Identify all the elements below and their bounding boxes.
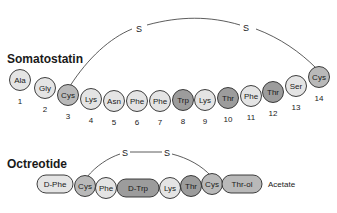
residue-label: D-Phe	[44, 180, 67, 189]
residue-cys-14: Cys14	[309, 67, 330, 104]
residue-label: Trp	[177, 96, 189, 105]
residue-thr-ol: Thr-ol	[222, 175, 262, 193]
residue-gly-2: Gly2	[35, 78, 56, 115]
residue-number: 6	[135, 118, 140, 127]
residue-phe-11: Phe11	[241, 86, 262, 123]
residue-label: Lys	[85, 95, 97, 104]
residue-label: Cys	[78, 182, 92, 191]
residue-label: Thr	[267, 88, 279, 97]
residue-number: 14	[315, 94, 324, 103]
residue-number: 9	[203, 117, 208, 126]
residue-label: Cys	[61, 91, 75, 100]
residue-label: Phe	[99, 184, 114, 193]
residue-number: 4	[89, 116, 94, 125]
residue-label: Phe	[153, 97, 168, 106]
residue-label: Phe	[244, 92, 259, 101]
residue-thr-10: Thr10	[218, 88, 239, 125]
residue-cys: Cys	[75, 176, 96, 197]
residue-d-phe: D-Phe	[37, 175, 73, 193]
residue-number: 8	[181, 117, 186, 126]
residue-phe-7: Phe7	[150, 91, 171, 128]
residue-label: Lys	[164, 184, 176, 193]
residue-label: Phe	[130, 97, 145, 106]
residue-number: 13	[292, 103, 301, 112]
residue-number: 7	[158, 118, 163, 127]
residue-label: Asn	[107, 97, 121, 106]
residue-label: Cys	[312, 73, 326, 82]
residue-cys-3: Cys3	[58, 85, 79, 122]
residue-cys: Cys	[202, 174, 223, 195]
residue-lys: Lys	[160, 178, 181, 199]
residue-label: Ala	[14, 76, 26, 85]
residue-lys-9: Lys9	[195, 90, 216, 127]
residue-phe: Phe	[96, 178, 117, 199]
residue-number: 3	[66, 112, 71, 121]
residue-number: 2	[43, 105, 48, 114]
residue-ala-1: Ala1	[10, 70, 31, 107]
peptide-diagram: S S Ala1Gly2Cys3Lys4Asn5Phe6Phe7Trp8Lys9…	[0, 0, 337, 213]
residue-label: Thr	[222, 94, 234, 103]
residue-label: Gly	[39, 84, 51, 93]
residue-trp-8: Trp8	[173, 90, 194, 127]
sulfur-label-left: S	[136, 24, 142, 34]
residue-number: 1	[18, 97, 23, 106]
residue-thr-12: Thr12	[263, 82, 284, 119]
residue-number: 11	[247, 113, 256, 122]
octreotide-chain: D-PheCysPheD-TrpLysThrCysThr-ol	[37, 174, 262, 199]
sulfur-label-right: S	[164, 148, 170, 158]
residue-label: Cys	[205, 180, 219, 189]
somatostatin-chain: Ala1Gly2Cys3Lys4Asn5Phe6Phe7Trp8Lys9Thr1…	[10, 67, 330, 128]
residue-label: Thr	[185, 182, 197, 191]
octreotide-disulfide-bridge: S S	[87, 148, 211, 177]
residue-ser-13: Ser13	[286, 76, 307, 113]
residue-label: D-Trp	[128, 184, 149, 193]
sulfur-label-left: S	[122, 148, 128, 158]
acetate-label: Acetate	[268, 180, 296, 189]
residue-lys-4: Lys4	[81, 89, 102, 126]
residue-label: Ser	[290, 82, 303, 91]
residue-number: 12	[269, 109, 278, 118]
residue-d-trp: D-Trp	[117, 179, 159, 197]
residue-label: Lys	[199, 96, 211, 105]
somatostatin-disulfide-bridge: S S	[70, 18, 316, 86]
residue-number: 10	[224, 115, 233, 124]
residue-number: 5	[112, 118, 117, 127]
residue-thr: Thr	[181, 176, 202, 197]
sulfur-label-right: S	[243, 23, 249, 33]
residue-label: Thr-ol	[232, 180, 253, 189]
residue-phe-6: Phe6	[127, 91, 148, 128]
residue-asn-5: Asn5	[104, 91, 125, 128]
